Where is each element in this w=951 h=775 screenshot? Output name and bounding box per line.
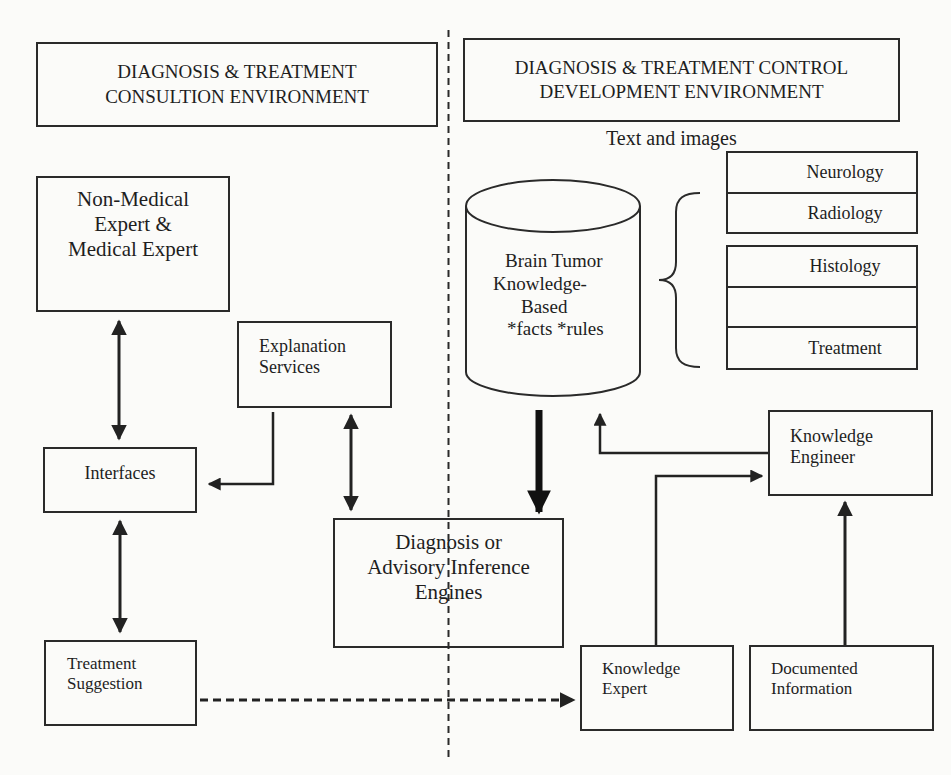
node-label: Engines [415, 580, 483, 605]
node-label: Treatment [67, 654, 136, 674]
node-label: Knowledge [790, 426, 873, 447]
category-label: Histology [763, 256, 880, 277]
category-empty [726, 286, 918, 328]
node-label: Interfaces [85, 463, 156, 484]
category-treatment: Treatment [726, 326, 918, 370]
node-label: Explanation [259, 336, 346, 357]
node-label: *facts *rules [493, 318, 604, 341]
header-line: DEVELOPMENT ENVIRONMENT [539, 80, 823, 104]
documented-information-node: Documented Information [749, 645, 934, 731]
arrow-expert-engineer [656, 476, 762, 645]
brain-tumor-expert-system-diagram: DIAGNOSIS & TREATMENT CONSULTION ENVIRON… [0, 0, 951, 775]
development-environment-header: DIAGNOSIS & TREATMENT CONTROL DEVELOPMEN… [463, 38, 900, 122]
node-label: Services [259, 357, 320, 378]
arrow-explanation-interfaces [209, 412, 273, 484]
node-label: Information [771, 679, 852, 699]
category-histology: Histology [726, 245, 918, 288]
header-line: DIAGNOSIS & TREATMENT CONTROL [515, 56, 848, 80]
category-label: Radiology [762, 203, 883, 224]
interfaces-node: Interfaces [43, 447, 197, 513]
node-label: Expert & [94, 212, 172, 237]
node-label: Medical Expert [68, 237, 198, 262]
treatment-suggestion-node: Treatment Suggestion [44, 640, 197, 726]
knowledge-expert-node: Knowledge Expert [580, 645, 734, 731]
category-radiology: Radiology [726, 192, 918, 234]
text-and-images-caption: Text and images [606, 127, 737, 150]
curly-brace-icon [659, 193, 700, 367]
header-line: CONSULTION ENVIRONMENT [105, 85, 369, 109]
node-label: Based [493, 296, 604, 319]
category-label: Treatment [762, 338, 881, 359]
header-line: DIAGNOSIS & TREATMENT [117, 60, 356, 84]
node-label: Documented [771, 659, 858, 679]
users-node: Non-Medical Expert & Medical Expert [36, 176, 230, 312]
explanation-services-node: Explanation Services [237, 321, 392, 408]
arrow-engineer-knowledgebase [600, 414, 768, 453]
inference-engine-node: Diagnosis or Advisory Inference Engines [333, 518, 564, 648]
knowledge-base-label: Brain Tumor Knowledge- Based *facts *rul… [493, 250, 604, 341]
consultation-environment-header: DIAGNOSIS & TREATMENT CONSULTION ENVIRON… [36, 42, 438, 127]
knowledge-engineer-node: Knowledge Engineer [768, 410, 933, 496]
node-label: Brain Tumor [493, 250, 604, 273]
node-label: Suggestion [67, 674, 143, 694]
node-label: Diagnosis or [395, 530, 502, 555]
node-label: Knowledge [602, 659, 680, 679]
node-label: Non-Medical [77, 187, 189, 212]
category-neurology: Neurology [726, 151, 918, 194]
node-label: Advisory Inference [367, 555, 530, 580]
node-label: Expert [602, 679, 647, 699]
category-label: Neurology [761, 162, 884, 183]
node-label: Engineer [790, 447, 855, 468]
node-label: Knowledge- [493, 273, 604, 296]
